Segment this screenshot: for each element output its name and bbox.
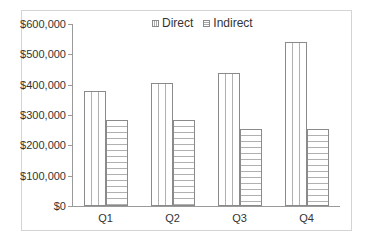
- x-tick-label: Q1: [98, 212, 113, 224]
- legend-label-direct: Direct: [162, 16, 193, 30]
- bar-indirect-q2: [173, 120, 195, 206]
- x-tick-label: Q3: [232, 212, 247, 224]
- y-axis: [72, 24, 73, 206]
- legend-item-direct: Direct: [152, 16, 193, 30]
- y-tick-label: $0: [54, 200, 66, 212]
- y-tick-label: $400,000: [20, 79, 66, 91]
- bar-indirect-q1: [106, 120, 128, 206]
- legend: Direct Indirect: [152, 16, 253, 30]
- y-tick-label: $200,000: [20, 139, 66, 151]
- y-tick-label: $100,000: [20, 170, 66, 182]
- bar-indirect-q4: [307, 129, 329, 206]
- x-axis: [72, 206, 340, 207]
- bar-direct-q2: [151, 83, 173, 206]
- y-tick-label: $600,000: [20, 18, 66, 30]
- bar-indirect-q3: [240, 129, 262, 206]
- legend-item-indirect: Indirect: [203, 16, 252, 30]
- bar-direct-q3: [218, 73, 240, 206]
- indirect-swatch-icon: [203, 20, 210, 27]
- direct-swatch-icon: [152, 20, 159, 27]
- y-tick-label: $500,000: [20, 48, 66, 60]
- bar-direct-q4: [285, 42, 307, 206]
- bar-direct-q1: [84, 91, 106, 206]
- x-tick-label: Q2: [165, 212, 180, 224]
- x-tick-label: Q4: [299, 212, 314, 224]
- y-tick-label: $300,000: [20, 109, 66, 121]
- legend-label-indirect: Indirect: [213, 16, 252, 30]
